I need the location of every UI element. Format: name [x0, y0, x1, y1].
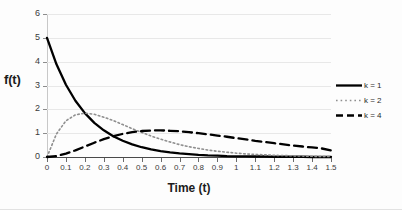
x-tick-mark [217, 158, 218, 162]
x-tick-mark [331, 158, 332, 162]
y-tick-label: 1 [0, 128, 40, 137]
legend-swatch-icon [336, 95, 362, 106]
x-tick-mark [255, 158, 256, 162]
legend-label: k = 2 [364, 96, 382, 105]
x-tick-mark [312, 158, 313, 162]
x-tick-mark [85, 158, 86, 162]
y-tick-label: 0 [0, 152, 40, 161]
figure-bottom-border [0, 209, 402, 210]
y-tick-label: 6 [0, 9, 40, 18]
x-tick-mark [274, 158, 275, 162]
series-curves [47, 14, 331, 157]
y-tick-label: 5 [0, 33, 40, 42]
series-line-1 [47, 38, 331, 157]
x-tick-mark [123, 158, 124, 162]
x-tick-label: 1.5 [317, 163, 345, 172]
x-axis-title: Time (t) [47, 182, 331, 195]
legend-swatch-icon [336, 110, 362, 121]
x-tick-mark [198, 158, 199, 162]
x-tick-mark [236, 158, 237, 162]
x-tick-mark [142, 158, 143, 162]
legend-item-3[interactable]: k = 4 [336, 108, 398, 123]
legend-swatch-icon [336, 80, 362, 91]
x-tick-mark [47, 158, 48, 162]
y-tick-label: 4 [0, 57, 40, 66]
chart-figure: f(t) 0123456 00.10.20.30.40.50.60.70.80.… [0, 0, 402, 210]
chart-legend: k = 1k = 2k = 4 [336, 78, 398, 123]
x-tick-mark [180, 158, 181, 162]
x-tick-mark [104, 158, 105, 162]
y-tick-label: 2 [0, 104, 40, 113]
series-line-2 [47, 113, 331, 157]
y-tick-label: 3 [0, 81, 40, 90]
legend-item-1[interactable]: k = 1 [336, 78, 398, 93]
x-tick-mark [293, 158, 294, 162]
legend-item-2[interactable]: k = 2 [336, 93, 398, 108]
x-tick-mark [66, 158, 67, 162]
legend-label: k = 4 [364, 111, 382, 120]
legend-label: k = 1 [364, 81, 382, 90]
plot-area [47, 14, 331, 157]
x-tick-mark [161, 158, 162, 162]
